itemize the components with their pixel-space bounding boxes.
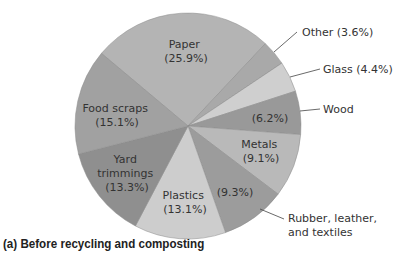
label-paper: Paper (25.9%) <box>164 38 208 65</box>
label-metals: Metals (9.1%) <box>241 138 281 165</box>
pie-chart: Paper (25.9%) Food scraps (15.1%) Yard t… <box>0 0 411 259</box>
label-rubber-value: (9.3%) <box>217 186 254 199</box>
callout-other: Other (3.6%) <box>302 26 373 39</box>
callout-line-rubber <box>260 209 284 219</box>
label-wood-value: (6.2%) <box>252 112 289 125</box>
callout-line-wood <box>300 109 320 111</box>
callout-glass: Glass (4.4%) <box>323 63 393 76</box>
chart-caption: (a) Before recycling and composting <box>3 236 204 251</box>
label-plastics: Plastics (13.1%) <box>163 189 208 216</box>
callout-rubber: Rubber, leather, and textiles <box>288 212 381 239</box>
callout-wood: Wood <box>323 103 354 116</box>
callout-line-other <box>274 32 297 52</box>
callout-line-glass <box>290 69 320 77</box>
